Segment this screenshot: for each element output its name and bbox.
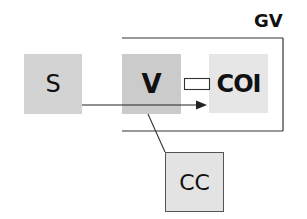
edge-s-to-coi-arrow (82, 101, 207, 110)
connector-rectangle (185, 79, 210, 90)
diagram-lines (0, 0, 307, 219)
arrowhead-icon (196, 101, 207, 110)
edge-v-to-cc-line (148, 114, 165, 152)
